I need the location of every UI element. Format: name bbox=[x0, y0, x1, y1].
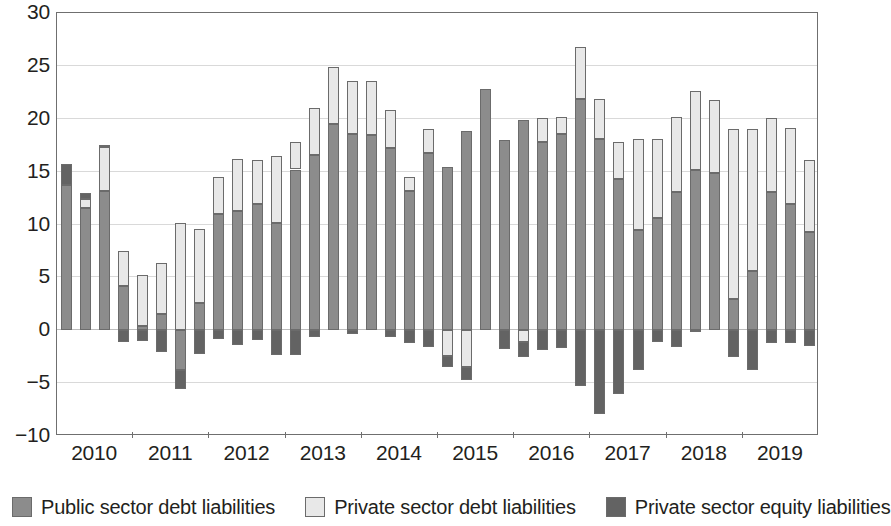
bar-segment-public bbox=[213, 214, 224, 330]
plot-area bbox=[56, 12, 818, 435]
bar-segment-privdebt bbox=[175, 223, 186, 330]
bar-segment-privdebt bbox=[194, 229, 205, 303]
bar-group[interactable] bbox=[556, 13, 567, 434]
legend-item-privequity[interactable]: Private sector equity liabilities bbox=[606, 496, 891, 518]
bar-segment-privdebt bbox=[747, 129, 758, 271]
bar-segment-public bbox=[785, 204, 796, 330]
bar-segment-public bbox=[709, 173, 720, 331]
bar-segment-privequity bbox=[232, 330, 243, 345]
bar-group[interactable] bbox=[633, 13, 644, 434]
bar-group[interactable] bbox=[480, 13, 491, 434]
bar-segment-privdebt bbox=[347, 81, 358, 134]
bar-segment-public bbox=[671, 192, 682, 331]
bar-group[interactable] bbox=[366, 13, 377, 434]
bar-group[interactable] bbox=[442, 13, 453, 434]
bar-group[interactable] bbox=[290, 13, 301, 434]
legend-item-public[interactable]: Public sector debt liabilities bbox=[12, 496, 275, 518]
bar-group[interactable] bbox=[137, 13, 148, 434]
y-tick-label: −5 bbox=[4, 371, 50, 392]
x-tick-mark bbox=[513, 432, 514, 438]
y-tick-label: 0 bbox=[4, 318, 50, 339]
bar-group[interactable] bbox=[156, 13, 167, 434]
bar-segment-public bbox=[271, 223, 282, 330]
bar-segment-privequity bbox=[575, 330, 586, 386]
bar-segment-privequity bbox=[213, 330, 224, 338]
bar-segment-privdebt bbox=[309, 108, 320, 155]
bar-group[interactable] bbox=[537, 13, 548, 434]
bar-group[interactable] bbox=[404, 13, 415, 434]
bar-segment-privdebt bbox=[671, 117, 682, 192]
bar-group[interactable] bbox=[499, 13, 510, 434]
bar-group[interactable] bbox=[518, 13, 529, 434]
bar-group[interactable] bbox=[785, 13, 796, 434]
bar-segment-privdebt bbox=[728, 129, 739, 298]
bar-segment-privequity bbox=[271, 330, 282, 354]
bar-segment-public bbox=[518, 120, 529, 330]
bar-group[interactable] bbox=[423, 13, 434, 434]
legend-label: Private sector debt liabilities bbox=[334, 496, 576, 518]
bar-segment-privequity bbox=[290, 330, 301, 354]
bar-group[interactable] bbox=[175, 13, 186, 434]
bar-segment-public bbox=[385, 148, 396, 330]
bar-segment-privdebt bbox=[575, 47, 586, 99]
bar-segment-privequity bbox=[347, 330, 358, 334]
x-tick-label-2010: 2010 bbox=[71, 442, 117, 464]
bar-group[interactable] bbox=[385, 13, 396, 434]
bar-segment-public bbox=[537, 142, 548, 330]
gridline-5 bbox=[57, 276, 817, 277]
x-tick-mark bbox=[589, 432, 590, 438]
bar-segment-privdebt bbox=[366, 81, 377, 135]
bar-segment-public bbox=[613, 179, 624, 330]
bar-segment-public bbox=[328, 124, 339, 330]
bar-group[interactable] bbox=[347, 13, 358, 434]
bar-segment-privequity bbox=[804, 330, 815, 346]
bar-group[interactable] bbox=[690, 13, 701, 434]
bar-group[interactable] bbox=[194, 13, 205, 434]
bar-group[interactable] bbox=[671, 13, 682, 434]
bar-group[interactable] bbox=[328, 13, 339, 434]
bar-group[interactable] bbox=[804, 13, 815, 434]
bar-group[interactable] bbox=[709, 13, 720, 434]
bar-group[interactable] bbox=[766, 13, 777, 434]
bar-segment-privequity bbox=[499, 330, 510, 349]
bar-group[interactable] bbox=[309, 13, 320, 434]
chart-legend: Public sector debt liabilitiesPrivate se… bbox=[0, 487, 829, 526]
bar-group[interactable] bbox=[80, 13, 91, 434]
bar-group[interactable] bbox=[118, 13, 129, 434]
bar-group[interactable] bbox=[575, 13, 586, 434]
y-tick-label: 15 bbox=[4, 160, 50, 181]
bar-segment-privdebt bbox=[271, 156, 282, 224]
bar-segment-privequity bbox=[556, 330, 567, 348]
bar-segment-privdebt bbox=[766, 118, 777, 192]
bar-group[interactable] bbox=[271, 13, 282, 434]
legend-item-privdebt[interactable]: Private sector debt liabilities bbox=[305, 496, 576, 518]
bar-group[interactable] bbox=[61, 13, 72, 434]
bar-group[interactable] bbox=[99, 13, 110, 434]
legend-swatch-icon bbox=[606, 497, 626, 517]
bar-segment-privdebt bbox=[556, 117, 567, 134]
bar-segment-public bbox=[499, 140, 510, 330]
bar-group[interactable] bbox=[232, 13, 243, 434]
bar-group[interactable] bbox=[728, 13, 739, 434]
bar-group[interactable] bbox=[213, 13, 224, 434]
bar-segment-public bbox=[194, 303, 205, 330]
bar-group[interactable] bbox=[652, 13, 663, 434]
bar-segment-privequity bbox=[252, 330, 263, 340]
legend-label: Private sector equity liabilities bbox=[635, 496, 891, 518]
bar-segment-privdebt bbox=[804, 160, 815, 232]
bar-segment-public bbox=[556, 134, 567, 331]
bar-group[interactable] bbox=[613, 13, 624, 434]
bar-segment-privdebt bbox=[137, 275, 148, 326]
x-tick-mark bbox=[666, 432, 667, 438]
bar-segment-public bbox=[232, 211, 243, 330]
bar-segment-privequity bbox=[80, 193, 91, 199]
bar-group[interactable] bbox=[747, 13, 758, 434]
bar-segment-privdebt bbox=[652, 139, 663, 218]
x-tick-mark bbox=[132, 432, 133, 438]
bar-segment-public bbox=[404, 191, 415, 331]
bar-group[interactable] bbox=[461, 13, 472, 434]
bar-segment-privdebt bbox=[709, 100, 720, 173]
bar-segment-public bbox=[61, 185, 72, 330]
bar-group[interactable] bbox=[594, 13, 605, 434]
bar-group[interactable] bbox=[252, 13, 263, 434]
